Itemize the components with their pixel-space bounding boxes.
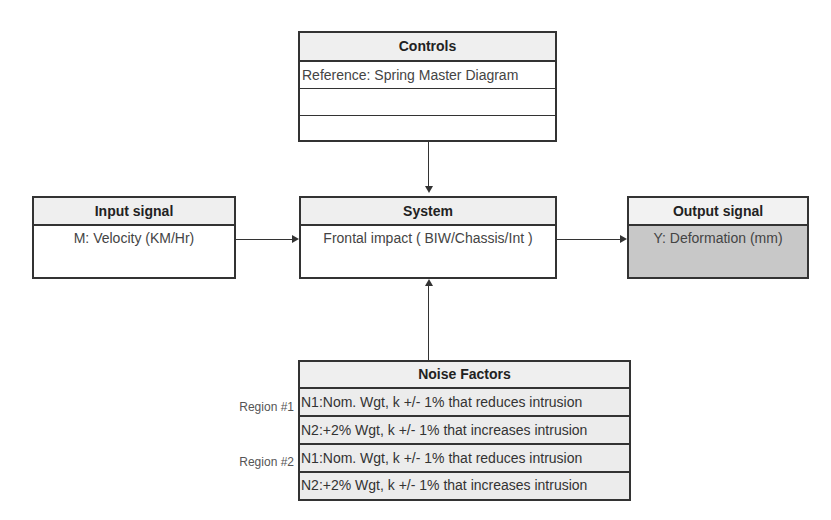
controls-row: Reference: Spring Master Diagram <box>300 62 555 89</box>
input-to-system-connector <box>236 239 292 240</box>
input-signal-title: Input signal <box>34 198 234 226</box>
arrowhead-right-icon <box>292 235 299 243</box>
region-label: Region #1 <box>224 400 294 414</box>
output-signal-value: Y: Deformation (mm) <box>629 226 807 250</box>
controls-title: Controls <box>300 33 555 62</box>
controls-row <box>300 116 555 140</box>
noise-factor-row: N1:Nom. Wgt, k +/- 1% that reduces intru… <box>300 445 629 473</box>
noise-factors-title: Noise Factors <box>300 362 629 389</box>
controls-row <box>300 89 555 116</box>
arrowhead-up-icon <box>425 279 433 286</box>
arrowhead-down-icon <box>425 186 433 193</box>
p-diagram: Controls Reference: Spring Master Diagra… <box>0 0 831 520</box>
system-box: System Frontal impact ( BIW/Chassis/Int … <box>299 196 557 279</box>
noise-factor-row: N1:Nom. Wgt, k +/- 1% that reduces intru… <box>300 389 629 417</box>
arrowhead-right-icon <box>620 235 627 243</box>
region-label: Region #2 <box>224 455 294 469</box>
controls-to-system-connector <box>428 142 429 186</box>
system-value: Frontal impact ( BIW/Chassis/Int ) <box>301 226 555 250</box>
noise-factors-box: Noise Factors N1:Nom. Wgt, k +/- 1% that… <box>298 360 631 501</box>
noise-factor-row: N2:+2% Wgt, k +/- 1% that increases intr… <box>300 417 629 445</box>
system-title: System <box>301 198 555 226</box>
output-signal-title: Output signal <box>629 198 807 226</box>
output-signal-box: Output signal Y: Deformation (mm) <box>627 196 809 279</box>
noise-factor-row: N2:+2% Wgt, k +/- 1% that increases intr… <box>300 473 629 499</box>
noise-to-system-connector <box>428 286 429 360</box>
input-signal-value: M: Velocity (KM/Hr) <box>34 226 234 250</box>
controls-box: Controls Reference: Spring Master Diagra… <box>298 31 557 142</box>
input-signal-box: Input signal M: Velocity (KM/Hr) <box>32 196 236 279</box>
system-to-output-connector <box>557 239 620 240</box>
